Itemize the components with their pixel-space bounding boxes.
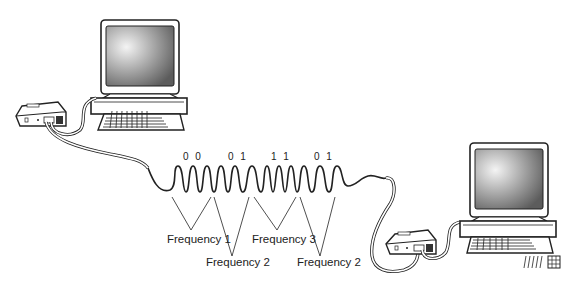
label-frequency-1: Frequency 1 [167, 233, 231, 245]
frequency-labels: Frequency 1 Frequency 2 Frequency 3 Freq… [167, 233, 361, 268]
computer-right [460, 143, 560, 268]
fsk-diagram: 0 0 0 1 1 1 0 1 Frequency 1 Frequency 2 … [0, 0, 580, 287]
bit-labels: 0 0 0 1 1 1 0 1 [183, 151, 334, 162]
label-frequency-2a: Frequency 2 [206, 256, 270, 268]
modem-left [16, 102, 66, 126]
pointer-frequency-2a [214, 197, 249, 256]
keyboard-cord-right [524, 256, 542, 268]
numpad-right [548, 256, 560, 268]
label-frequency-2b: Frequency 2 [297, 256, 361, 268]
pointer-frequency-1 [172, 197, 211, 230]
bit-pair-3: 1 1 [271, 151, 291, 162]
bit-pair-1: 0 0 [183, 151, 203, 162]
label-frequency-3: Frequency 3 [252, 233, 316, 245]
bit-pair-4: 0 1 [314, 151, 334, 162]
pointer-frequency-3 [254, 197, 296, 230]
screen-right [475, 149, 543, 209]
system-unit-left [91, 98, 187, 114]
screen-left [106, 26, 174, 86]
frequency-pointers [172, 197, 335, 256]
system-unit-right [460, 221, 556, 237]
bit-pair-2: 0 1 [228, 151, 248, 162]
fsk-signal-wave [148, 166, 386, 192]
keyboard-right [467, 237, 553, 253]
computer-left [91, 20, 187, 130]
pointer-frequency-2b [300, 197, 335, 256]
modem-right [386, 230, 436, 254]
